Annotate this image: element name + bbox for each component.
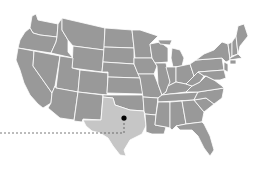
state-kansas[interactable]: [107, 77, 143, 94]
state-arkansas[interactable]: [143, 97, 158, 115]
state-connecticut[interactable]: [230, 60, 236, 64]
state-arizona[interactable]: [48, 86, 78, 120]
state-maine[interactable]: [236, 24, 248, 54]
us-map-svg: [0, 0, 269, 173]
us-map: [0, 0, 269, 173]
state-new-mexico[interactable]: [74, 92, 103, 122]
state-new-york[interactable]: [196, 42, 230, 62]
state-new-jersey[interactable]: [224, 62, 228, 72]
state-montana[interactable]: [62, 18, 105, 50]
state-south-dakota[interactable]: [103, 47, 134, 64]
state-mississippi[interactable]: [155, 102, 170, 128]
states-group: [16, 14, 248, 156]
state-colorado[interactable]: [78, 70, 108, 95]
state-florida[interactable]: [176, 122, 214, 156]
state-michigan[interactable]: [171, 48, 184, 67]
state-wisconsin[interactable]: [150, 42, 168, 63]
state-wyoming[interactable]: [72, 46, 104, 72]
state-north-dakota[interactable]: [104, 28, 134, 48]
state-michigan-upper[interactable]: [158, 40, 172, 45]
location-marker-dot[interactable]: [121, 115, 126, 120]
